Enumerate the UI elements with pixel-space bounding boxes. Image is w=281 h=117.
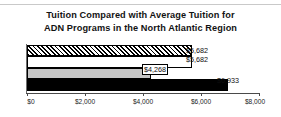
bar-series-4 [27, 79, 228, 91]
bar-value-label-2: $5,682 [186, 55, 208, 64]
top-divider [0, 4, 281, 5]
x-tick-label-3: $6,000 [191, 98, 211, 105]
x-tick-1 [85, 93, 86, 96]
x-tick-label-0: $0 [27, 98, 34, 105]
x-tick-label-4: $8,000 [245, 98, 265, 105]
bar-series-1 [27, 45, 192, 56]
bar-series-3 [27, 68, 151, 79]
bar-value-label-1: $5,682 [186, 46, 208, 55]
bar-value-label-3: $4,268 [142, 64, 168, 75]
bar-value-label-4: $6,933 [217, 76, 239, 85]
chart-container: Tuition Compared with Average Tuition fo… [0, 0, 281, 117]
x-tick-4 [259, 93, 260, 96]
x-tick-0 [27, 93, 28, 96]
chart-title: Tuition Compared with Average Tuition fo… [0, 9, 281, 35]
x-tick-3 [201, 93, 202, 96]
x-tick-label-2: $4,000 [133, 98, 153, 105]
chart-title-line-1: Tuition Compared with Average Tuition fo… [0, 9, 281, 22]
x-tick-2 [143, 93, 144, 96]
chart-title-line-2: ADN Programs in the North Atlantic Regio… [0, 22, 281, 35]
x-tick-label-1: $2,000 [75, 98, 95, 105]
